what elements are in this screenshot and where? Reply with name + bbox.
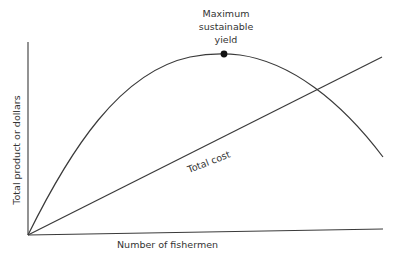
x-axis (28, 229, 383, 235)
msy-label-line2: sustainable (199, 21, 254, 32)
msy-label-line3: yield (215, 34, 238, 45)
y-axis-label: Total product or dollars (11, 95, 22, 205)
chart: Maximum sustainable yield Total cost Num… (0, 0, 398, 258)
msy-label-line1: Maximum (203, 8, 250, 19)
x-axis-label: Number of fishermen (117, 239, 218, 250)
total-cost-line (28, 57, 382, 235)
max-sustainable-yield-marker (221, 51, 228, 58)
